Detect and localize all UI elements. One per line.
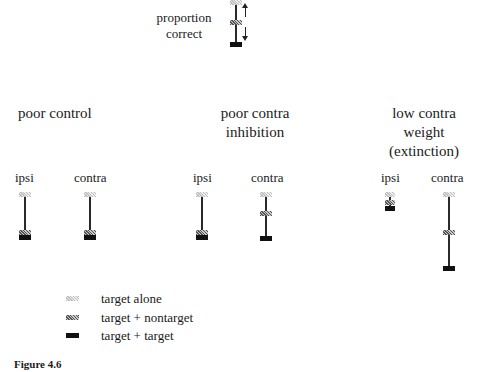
marker-target [260, 236, 272, 241]
figure-caption: Figure 4.6 [14, 356, 61, 372]
panel-title-poor-control: poor control [18, 104, 92, 123]
legend-marker-target-target [66, 333, 79, 338]
key-marker-nontarget [230, 20, 242, 25]
key-marker-target-alone [230, 0, 242, 5]
key-label-line2: correct [148, 26, 220, 42]
key-label-line1: proportion [148, 10, 220, 26]
bar-line [265, 195, 267, 237]
legend-marker-target-nontarget [66, 315, 79, 320]
legend-label-target-nontarget: target + nontarget [101, 310, 193, 326]
marker-nontarget [385, 200, 395, 205]
marker-nontarget [260, 211, 272, 216]
marker-target-alone [196, 192, 208, 197]
marker-target-alone [84, 192, 96, 197]
marker-target [443, 266, 455, 271]
key-label: proportion correct [148, 10, 220, 42]
marker-target [385, 206, 395, 211]
marker-target [19, 235, 31, 240]
marker-target [84, 235, 96, 240]
column-label-contra: contra [74, 170, 106, 186]
legend-marker-target-alone [66, 296, 79, 301]
marker-target [196, 235, 208, 240]
arrow-down-icon [245, 27, 246, 37]
legend-label-target-target: target + target [101, 328, 174, 344]
marker-target-alone [443, 192, 455, 197]
key-marker-target [230, 42, 242, 47]
marker-target-alone [19, 192, 31, 197]
marker-nontarget [443, 230, 455, 235]
column-label-contra: contra [431, 170, 463, 186]
column-label-ipsi: ipsi [15, 170, 34, 186]
column-label-ipsi: ipsi [193, 170, 212, 186]
legend-label-target-alone: target alone [101, 291, 162, 307]
panel-title-low-contra-weight: low contra weight (extinction) [368, 104, 480, 161]
marker-target-alone [260, 192, 272, 197]
marker-target-alone [385, 192, 395, 197]
arrow-up-icon [245, 7, 246, 17]
column-label-ipsi: ipsi [381, 170, 400, 186]
column-label-contra: contra [251, 170, 283, 186]
panel-title-poor-contra-inhibition: poor contra inhibition [200, 104, 310, 142]
